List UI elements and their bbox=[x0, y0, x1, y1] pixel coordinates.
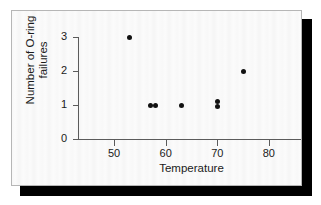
x-tick-label: 50 bbox=[99, 148, 129, 159]
data-point bbox=[127, 35, 132, 40]
y-axis-title: Number of O-ring failures bbox=[24, 10, 50, 130]
y-tick-mark bbox=[73, 37, 79, 38]
x-tick-mark bbox=[166, 140, 167, 146]
figure-card: 0123 50607080 Number of O-ring failures … bbox=[11, 10, 302, 186]
data-point bbox=[241, 69, 246, 74]
y-axis-title-line-2: failures bbox=[37, 10, 50, 130]
y-tick-mark bbox=[73, 139, 79, 140]
x-tick-label: 70 bbox=[202, 148, 232, 159]
y-tick-mark bbox=[73, 71, 79, 72]
y-tick-label: 0 bbox=[12, 133, 67, 144]
y-axis-title-line-1: Number of O-ring bbox=[24, 10, 37, 130]
data-point bbox=[148, 103, 153, 108]
x-tick-label: 80 bbox=[254, 148, 284, 159]
x-tick-label: 60 bbox=[151, 148, 181, 159]
scatter-plot: 0123 50607080 Number of O-ring failures … bbox=[12, 11, 301, 185]
data-point bbox=[153, 103, 158, 108]
y-axis-line bbox=[78, 37, 79, 140]
y-tick-mark bbox=[73, 105, 79, 106]
data-point bbox=[179, 103, 184, 108]
data-point bbox=[215, 104, 220, 109]
x-axis-title: Temperature bbox=[78, 162, 302, 175]
x-tick-mark bbox=[114, 140, 115, 146]
x-tick-mark bbox=[217, 140, 218, 146]
x-tick-mark bbox=[269, 140, 270, 146]
